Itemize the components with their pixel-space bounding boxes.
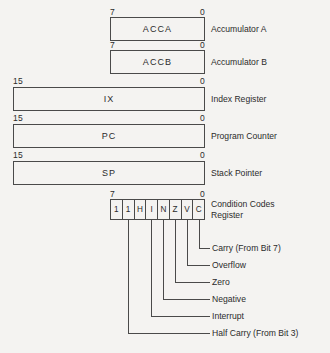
leader-line-carry-horizontal: [199, 248, 210, 249]
flag-label-zero: Zero: [212, 277, 230, 287]
register-box-ccr: 1 1 H I N Z V C: [110, 199, 205, 220]
leader-line-carry-vertical: [199, 220, 200, 249]
register-box-acca: ACCA: [110, 17, 205, 41]
register-description-sp: Stack Pointer: [211, 168, 262, 179]
ccr-bit-7: 1: [111, 200, 123, 219]
register-description-ix: Index Register: [211, 94, 266, 105]
register-description-accb: Accumulator B: [211, 57, 267, 68]
leader-line-negative-horizontal: [163, 299, 210, 300]
ccr-bit-n: N: [158, 200, 170, 219]
register-box-pc: PC: [13, 124, 205, 148]
register-name-accb: ACCB: [143, 57, 172, 67]
leader-line-zero-horizontal: [175, 282, 210, 283]
bit-label-lsb: 0: [200, 190, 205, 199]
register-description-ccr: Condition Codes Register: [211, 199, 275, 220]
bit-label-msb: 15: [13, 151, 23, 160]
ccr-description-line-1: Condition Codes: [211, 199, 275, 210]
ccr-bit-6: 1: [123, 200, 135, 219]
flag-label-negative: Negative: [212, 294, 246, 304]
leader-line-overflow-horizontal: [187, 265, 210, 266]
register-box-sp: SP: [13, 161, 205, 185]
mpu-programming-model-diagram: 7 0 ACCA Accumulator A 7 0 ACCB Accumula…: [0, 0, 330, 353]
register-description-pc: Program Counter: [211, 131, 277, 142]
ccr-bit-c: C: [193, 200, 204, 219]
bit-label-msb: 15: [13, 77, 23, 86]
flag-label-half-carry: Half Carry (From Bit 3): [212, 328, 298, 338]
leader-line-interrupt-horizontal: [151, 316, 210, 317]
flag-label-interrupt: Interrupt: [212, 311, 244, 321]
ccr-bit-v: V: [182, 200, 194, 219]
register-box-ix: IX: [13, 87, 205, 111]
flag-label-overflow: Overflow: [212, 260, 246, 270]
bit-label-lsb: 0: [200, 151, 205, 160]
ccr-description-line-2: Register: [211, 210, 275, 221]
bit-label-lsb: 0: [200, 41, 205, 50]
flag-label-carry: Carry (From Bit 7): [212, 243, 281, 253]
register-name-sp: SP: [102, 168, 116, 178]
bit-label-msb: 7: [110, 8, 115, 17]
register-box-accb: ACCB: [110, 50, 205, 74]
leader-line-zero-vertical: [175, 220, 176, 283]
leader-line-half-carry-horizontal: [128, 333, 210, 334]
bit-label-lsb: 0: [200, 77, 205, 86]
bit-label-msb: 7: [110, 41, 115, 50]
leader-line-negative-vertical: [163, 220, 164, 300]
ccr-bit-h: H: [135, 200, 147, 219]
leader-line-interrupt-vertical: [151, 220, 152, 317]
ccr-bit-z: Z: [170, 200, 182, 219]
bit-label-lsb: 0: [200, 8, 205, 17]
register-name-pc: PC: [102, 131, 117, 141]
leader-line-overflow-vertical: [187, 220, 188, 266]
register-name-ix: IX: [104, 94, 115, 104]
bit-label-msb: 7: [110, 190, 115, 199]
register-description-acca: Accumulator A: [211, 24, 266, 35]
bit-label-msb: 15: [13, 114, 23, 123]
register-name-acca: ACCA: [143, 24, 172, 34]
bit-label-lsb: 0: [200, 114, 205, 123]
leader-line-half-carry-vertical: [128, 220, 129, 334]
ccr-bit-i: I: [146, 200, 158, 219]
